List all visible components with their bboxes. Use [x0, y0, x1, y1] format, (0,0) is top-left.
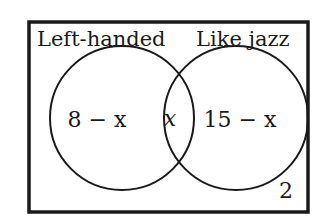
region-intersection: x [164, 106, 177, 131]
region-left-only: 8 − x [68, 107, 127, 132]
venn-diagram: Left-handed Like jazz 8 − x x 15 − x 2 [0, 0, 327, 217]
region-right-only: 15 − x [204, 107, 277, 132]
set-label-like-jazz: Like jazz [196, 27, 290, 51]
set-label-left-handed: Left-handed [37, 27, 166, 51]
region-outside: 2 [279, 178, 293, 203]
